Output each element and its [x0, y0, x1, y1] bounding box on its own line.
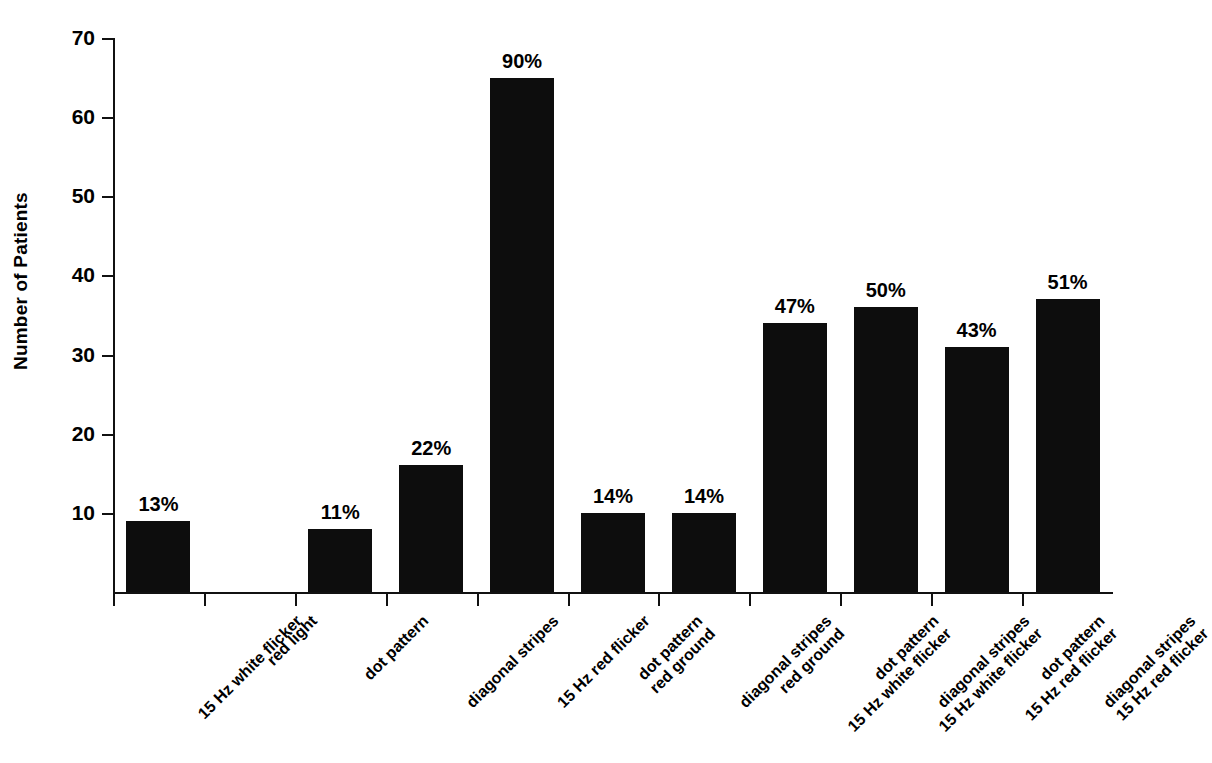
y-tick-70: 70: [102, 38, 113, 40]
y-tick-label-20: 20: [72, 422, 95, 446]
x-tick: [568, 594, 570, 606]
bar: 47%: [763, 323, 827, 592]
bar-value-label: 14%: [684, 485, 724, 508]
x-category-line-1: 15 Hz red flicker: [554, 612, 653, 711]
x-tick: [931, 594, 933, 606]
x-tick: [477, 594, 479, 606]
x-tick: [840, 594, 842, 606]
x-axis-line: [113, 592, 1113, 594]
x-tick: [658, 594, 660, 606]
bar-value-label: 90%: [502, 50, 542, 73]
y-tick-30: 30: [102, 355, 113, 357]
bar-value-label: 50%: [866, 279, 906, 302]
x-tick: [749, 594, 751, 606]
bar-value-label: 43%: [957, 319, 997, 342]
x-tick: [386, 594, 388, 606]
y-tick-label-30: 30: [72, 343, 95, 367]
bar: 22%: [399, 465, 463, 592]
bar: 14%: [672, 513, 736, 592]
bar: 43%: [945, 347, 1009, 592]
y-tick-60: 60: [102, 117, 113, 119]
bar: 13%: [126, 521, 190, 592]
x-category-label: dot pattern: [361, 612, 433, 684]
y-tick-50: 50: [102, 196, 113, 198]
x-category-label: diagonal stripes15 Hz red flicker: [1099, 612, 1212, 725]
y-tick-label-60: 60: [72, 105, 95, 129]
x-tick: [113, 594, 115, 606]
x-category-line-1: dot pattern: [361, 612, 432, 683]
y-tick-20: 20: [102, 434, 113, 436]
bar-value-label: 22%: [411, 437, 451, 460]
bar: 50%: [854, 307, 918, 592]
bar-value-label: 47%: [775, 295, 815, 318]
bar-value-label: 11%: [321, 501, 360, 524]
bar-value-label: 13%: [138, 493, 178, 516]
y-tick-40: 40: [102, 275, 113, 277]
bar: 90%: [490, 78, 554, 592]
bar-value-label: 51%: [1048, 271, 1088, 294]
y-tick-10: 10: [102, 513, 113, 515]
x-category-label: diagonal stripesred ground: [736, 612, 849, 725]
y-tick-label-10: 10: [72, 501, 95, 525]
x-category-line-1: 15 Hz white flicker: [195, 612, 305, 722]
bar-value-label: 14%: [593, 485, 633, 508]
y-axis-label: Number of Patients: [10, 0, 50, 370]
x-tick: [204, 594, 206, 606]
plot-area: 10203040506070 13%11%22%90%14%14%47%50%4…: [113, 38, 1113, 592]
x-tick: [1022, 594, 1024, 606]
x-category-label: 15 Hz red flicker: [554, 612, 654, 712]
bar: 51%: [1036, 299, 1100, 592]
x-category-label: diagonal stripes: [463, 612, 563, 712]
y-tick-label-70: 70: [72, 26, 95, 50]
bar: 11%: [308, 529, 372, 592]
bar: 14%: [581, 513, 645, 592]
x-tick: [295, 594, 297, 606]
y-tick-label-40: 40: [72, 263, 95, 287]
y-tick-label-50: 50: [72, 184, 95, 208]
x-category-line-1: diagonal stripes: [463, 612, 562, 711]
